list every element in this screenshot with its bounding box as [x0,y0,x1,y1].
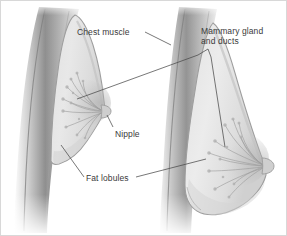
left-breast-figure [14,7,111,233]
breast-anatomy-figure: Chest muscle Mammary glandand ducts Nipp… [0,0,287,236]
right-nipple [262,158,274,174]
left-gland-region [51,79,111,127]
label-chest-muscle: Chest muscle [77,27,130,37]
label-fat-lobules: Fat lobules [86,173,129,183]
leader-nipple [107,115,113,127]
label-mammary-line-1: Mammary gland [201,26,263,36]
leader-chest-muscle [145,32,171,45]
label-mammary-line-2: and ducts [201,36,239,46]
label-nipple: Nipple [115,129,140,139]
label-mammary-gland-and-ducts: Mammary glandand ducts [201,26,263,46]
